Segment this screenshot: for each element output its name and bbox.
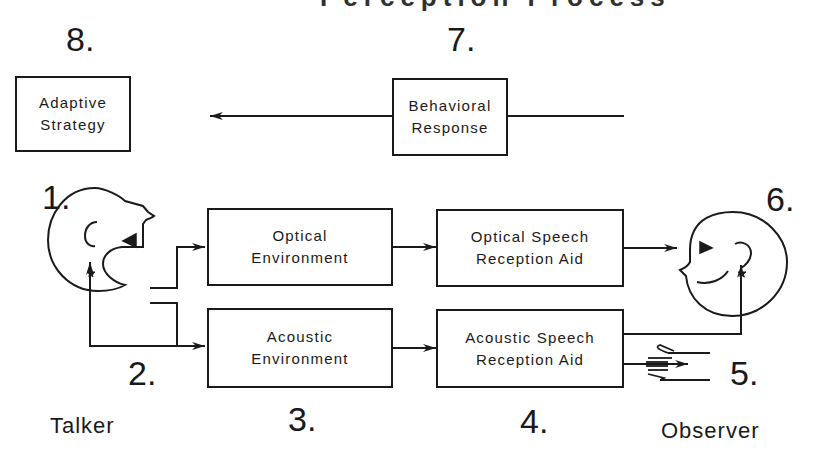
adaptive-strategy-line-2: Strategy <box>40 114 105 136</box>
feedback-number: 2. <box>128 356 156 390</box>
observer-number: 6. <box>766 182 794 216</box>
behavioral-response-line-2: Response <box>411 117 488 139</box>
observer-label: Observer <box>661 418 759 444</box>
talker-label: Talker <box>50 413 115 439</box>
behavioral-response-line-1: Behavioral <box>409 95 492 117</box>
acoustic-environment-line-2: Environment <box>251 348 348 370</box>
acoustic-aid-line-1: Acoustic Speech <box>465 327 595 349</box>
talker-number: 1. <box>42 180 70 214</box>
node-number-8: 8. <box>66 22 94 56</box>
connector-layer <box>0 0 833 469</box>
acoustic-aid-box: Acoustic Speech Reception Aid <box>436 309 624 388</box>
hand-icon <box>646 345 710 380</box>
adaptive-strategy-line-1: Adaptive <box>39 92 107 114</box>
node-number-7: 7. <box>447 22 475 56</box>
observer-eye-icon <box>700 242 712 253</box>
adaptive-strategy-box: Adaptive Strategy <box>15 76 131 152</box>
optical-aid-line-1: Optical Speech <box>471 226 590 248</box>
acoustic-aid-line-2: Reception Aid <box>476 349 584 371</box>
arrow-talker-to-acoustic <box>150 303 205 346</box>
acoustic-environment-box: Acoustic Environment <box>207 308 393 388</box>
tactile-number: 5. <box>730 356 758 390</box>
optical-aid-line-2: Reception Aid <box>476 248 584 270</box>
optical-environment-line-1: Optical <box>272 225 327 247</box>
optical-environment-line-2: Environment <box>251 247 348 269</box>
talker-eye-icon <box>123 234 136 247</box>
observer-head-icon <box>680 212 787 316</box>
optical-environment-box: Optical Environment <box>207 208 393 286</box>
acoustic-environment-line-1: Acoustic <box>267 326 333 348</box>
arrow-talker-to-optical <box>150 247 205 288</box>
environment-number: 3. <box>288 402 316 436</box>
optical-aid-box: Optical Speech Reception Aid <box>436 209 624 287</box>
behavioral-response-box: Behavioral Response <box>392 78 508 156</box>
aid-number: 4. <box>520 404 548 438</box>
